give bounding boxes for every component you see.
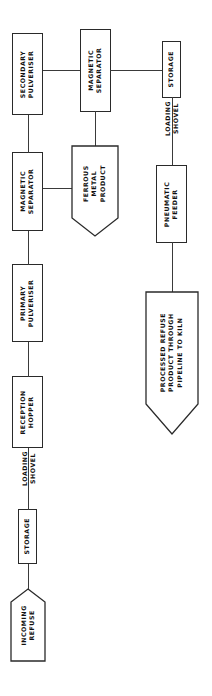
- connector-magnetic-separator-2-to-ferrous-metal-product: [95, 111, 96, 146]
- node-magnetic-separator-2[interactable]: MAGNETIC SEPARATOR: [80, 29, 111, 112]
- connector-pneumatic-feeder-to-processed-refuse: [172, 242, 173, 292]
- connector-magnetic-separator-1-to-ferrous-metal-product: [43, 188, 74, 189]
- node-label-secondary-pulveriser: SECONDARY PULVERISER: [19, 50, 36, 98]
- connector-incoming-refuse-to-storage: [28, 563, 29, 589]
- node-secondary-pulveriser[interactable]: SECONDARY PULVERISER: [12, 33, 43, 115]
- label-line-1: PRIMARY: [19, 285, 26, 320]
- label-line-1: INCOMING: [20, 605, 27, 645]
- label-line-3: PIPELINE TO KILN: [176, 317, 183, 387]
- label-line-2: SHOVEL: [29, 453, 36, 484]
- label-line-2: PULVERISER: [28, 50, 35, 98]
- node-processed-refuse-product[interactable]: PROCESSED REFUSE PRODUCT THROUGH PIPELIN…: [145, 291, 199, 435]
- label-line-2: HOPPER: [28, 396, 35, 428]
- node-magnetic-separator-1[interactable]: MAGNETIC SEPARATOR: [12, 152, 43, 231]
- label-line-1: MAGNETIC: [19, 171, 26, 212]
- node-reception-hopper[interactable]: RECEPTION HOPPER: [12, 376, 43, 448]
- node-label-magnetic-separator-2: MAGNETIC SEPARATOR: [87, 48, 104, 94]
- label-line-1: FERROUS: [82, 166, 89, 203]
- node-label-processed-refuse-product: PROCESSED REFUSE PRODUCT THROUGH PIPELIN…: [159, 313, 184, 392]
- label-line-2: PRODUCT THROUGH: [168, 313, 175, 392]
- node-label-ferrous-metal-product: FERROUS METAL PRODUCT: [82, 165, 107, 202]
- edge-label-loading-shovel-2: LOADING SHOVEL: [164, 87, 181, 149]
- node-label-reception-hopper: RECEPTION HOPPER: [19, 390, 36, 434]
- node-label-storage-in: STORAGE: [23, 518, 31, 555]
- label-line-2: SEPARATOR: [96, 48, 103, 94]
- connector-reception-hopper-to-primary-pulveriser: [28, 341, 29, 377]
- connector-magnetic-separator-1-to-secondary-pulveriser: [28, 114, 29, 153]
- node-pneumatic-feeder[interactable]: PNEUMATIC FEEDER: [156, 165, 187, 243]
- label-line-1: PROCESSED REFUSE: [159, 313, 166, 392]
- label-line-1: STORAGE: [23, 518, 30, 555]
- process-flowchart: INCOMING REFUSE STORAGE LOADING SHOVEL R…: [0, 0, 212, 696]
- label-line-1: SECONDARY: [19, 50, 26, 97]
- label-line-2: PULVERISER: [28, 279, 35, 327]
- connector-secondary-pulveriser-to-magnetic-separator-2: [43, 70, 81, 71]
- node-storage-in[interactable]: STORAGE: [18, 509, 37, 564]
- label-line-2: SHOVEL: [172, 103, 179, 134]
- node-incoming-refuse[interactable]: INCOMING REFUSE: [10, 588, 46, 662]
- label-line-2: SEPARATOR: [28, 169, 35, 215]
- node-ferrous-metal-product[interactable]: FERROUS METAL PRODUCT: [71, 145, 119, 237]
- node-label-magnetic-separator-1: MAGNETIC SEPARATOR: [19, 169, 36, 215]
- label-line-1: STORAGE: [167, 51, 174, 88]
- label-line-1: RECEPTION: [19, 390, 26, 434]
- label-line-1: PNEUMATIC: [163, 181, 170, 226]
- node-label-storage-out: STORAGE: [167, 51, 175, 88]
- label-line-2: METAL: [91, 171, 98, 197]
- node-label-pneumatic-feeder: PNEUMATIC FEEDER: [163, 181, 180, 226]
- label-line-1: MAGNETIC: [87, 50, 94, 91]
- label-line-1: LOADING: [21, 451, 28, 486]
- node-label-incoming-refuse: INCOMING REFUSE: [20, 605, 37, 645]
- node-primary-pulveriser[interactable]: PRIMARY PULVERISER: [12, 264, 43, 342]
- label-line-3: PRODUCT: [99, 165, 106, 202]
- label-line-1: LOADING: [164, 101, 171, 136]
- label-line-2: REFUSE: [28, 610, 35, 640]
- node-label-primary-pulveriser: PRIMARY PULVERISER: [19, 279, 36, 327]
- connector-primary-pulveriser-to-magnetic-separator-1: [28, 230, 29, 265]
- label-line-2: FEEDER: [172, 189, 179, 219]
